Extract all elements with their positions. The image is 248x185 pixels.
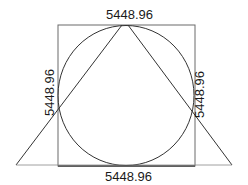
dimension-label-left: 5448.96 (43, 69, 56, 116)
inscribed-circle (58, 26, 194, 166)
triangle-right-side (128, 25, 232, 165)
triangle-left-side (16, 25, 122, 165)
dimension-label-right: 5448.96 (193, 71, 206, 118)
diagram-canvas (0, 0, 248, 185)
dimension-label-bottom: 5448.96 (105, 170, 152, 183)
dimension-label-top: 5448.96 (106, 8, 153, 21)
